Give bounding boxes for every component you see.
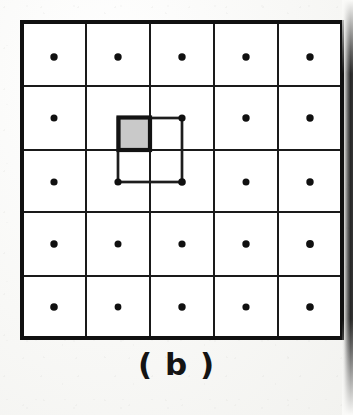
sample-point (50, 178, 57, 185)
sample-point (306, 240, 314, 248)
sample-point (306, 53, 313, 60)
sample-point (306, 178, 313, 185)
sample-point (242, 240, 249, 247)
sample-point (115, 304, 122, 311)
sample-point (306, 114, 313, 121)
sample-point (51, 115, 58, 122)
sample-point (306, 303, 314, 311)
sample-point (242, 303, 249, 310)
corner-point (178, 114, 185, 121)
sample-point (178, 240, 185, 247)
sample-point (243, 179, 250, 186)
sample-point (114, 53, 121, 60)
figure-root: ( b ) (0, 0, 353, 415)
sample-point (115, 241, 122, 248)
shaded-subpixel (119, 118, 151, 151)
sample-point (242, 53, 249, 60)
corner-point (114, 178, 121, 185)
sample-point (242, 114, 249, 121)
sample-point (50, 240, 57, 247)
sample-point (50, 53, 57, 60)
figure-caption: ( b ) (0, 344, 353, 384)
sample-point (178, 53, 185, 60)
sample-point (50, 303, 58, 311)
sample-point (178, 303, 185, 310)
corner-point (178, 178, 186, 186)
